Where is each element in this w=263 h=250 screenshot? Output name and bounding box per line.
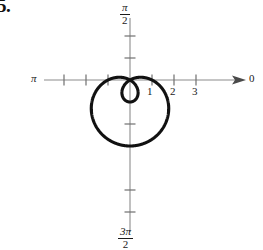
fraction-numerator: 3π: [118, 226, 133, 238]
axis-label-theta-pi: π: [31, 73, 37, 84]
fraction-3pi-over-2: 3π 2: [118, 226, 133, 250]
axis-label-theta-3pi-over-2: 3π 2: [118, 226, 133, 250]
axis-label-theta-zero: 0: [249, 73, 255, 84]
fraction-numerator: π: [120, 2, 130, 14]
axis-label-theta-pi-over-2: π 2: [120, 2, 130, 26]
fraction-denominator: 2: [118, 239, 133, 250]
tick-label-2: 2: [170, 86, 176, 97]
tick-label-3: 3: [192, 86, 198, 97]
axes-group: [44, 18, 246, 232]
tick-label-1: 1: [147, 86, 153, 97]
fraction-denominator: 2: [120, 15, 130, 27]
fraction-pi-over-2: π 2: [120, 2, 130, 26]
